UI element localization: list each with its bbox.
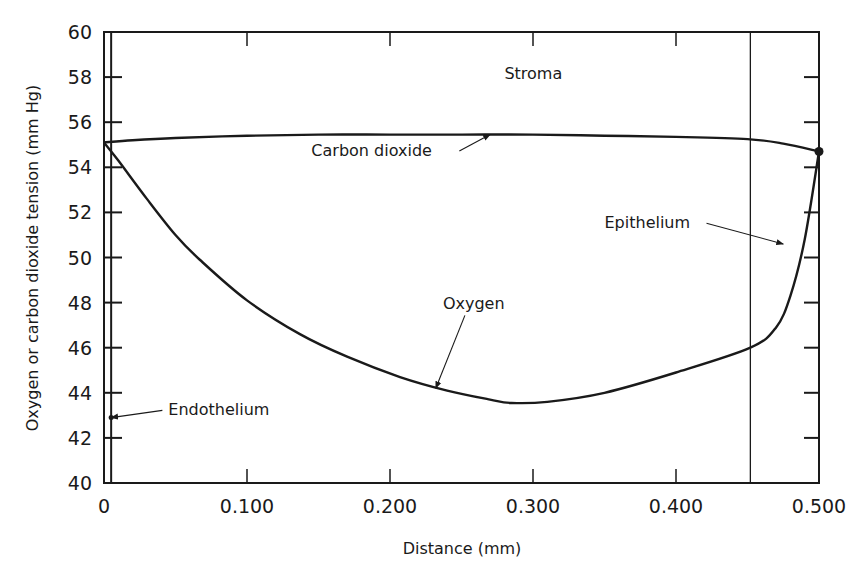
annotation-carbon-dioxide: Carbon dioxide	[311, 141, 432, 160]
x-tick-label: 0.400	[649, 495, 703, 517]
data-series	[104, 135, 824, 421]
annotation-arrow-endothelium	[111, 410, 162, 417]
curve-endpoint-dot	[815, 147, 824, 156]
y-axis-ticks: 4042444648505254565860	[68, 21, 819, 494]
x-tick-label: 0	[98, 495, 110, 517]
y-tick-label: 42	[68, 427, 92, 449]
y-tick-label: 50	[68, 247, 92, 269]
annotations: StromaCarbon dioxideOxygenEpitheliumEndo…	[111, 64, 783, 419]
y-tick-label: 60	[68, 21, 92, 43]
y-tick-label: 48	[68, 292, 92, 314]
x-tick-label: 0.500	[792, 495, 846, 517]
annotation-arrow-oxygen	[436, 315, 465, 388]
y-tick-label: 52	[68, 201, 92, 223]
annotation-arrow-epithelium	[707, 223, 784, 244]
x-tick-label: 0.100	[220, 495, 274, 517]
x-axis-title: Distance (mm)	[403, 539, 522, 558]
x-axis-ticks: 00.1000.2000.3000.4000.500	[98, 32, 846, 517]
oxygen-curve	[104, 142, 819, 403]
annotation-endothelium: Endothelium	[168, 400, 269, 419]
annotation-stroma: Stroma	[504, 64, 562, 83]
annotation-arrow-carbon-dioxide	[459, 135, 490, 151]
y-tick-label: 44	[68, 382, 92, 404]
y-axis-title: Oxygen or carbon dioxide tension (mm Hg)	[23, 85, 42, 431]
y-tick-label: 46	[68, 337, 92, 359]
y-tick-label: 54	[68, 156, 92, 178]
x-tick-label: 0.200	[363, 495, 417, 517]
x-tick-label: 0.300	[506, 495, 560, 517]
y-tick-label: 40	[68, 472, 92, 494]
y-tick-label: 56	[68, 111, 92, 133]
oxygen-co2-tension-chart: 4042444648505254565860 00.1000.2000.3000…	[0, 0, 858, 577]
carbon-dioxide-curve	[104, 135, 819, 152]
annotation-epithelium: Epithelium	[605, 213, 691, 232]
annotation-oxygen: Oxygen	[443, 294, 505, 313]
y-tick-label: 58	[68, 66, 92, 88]
